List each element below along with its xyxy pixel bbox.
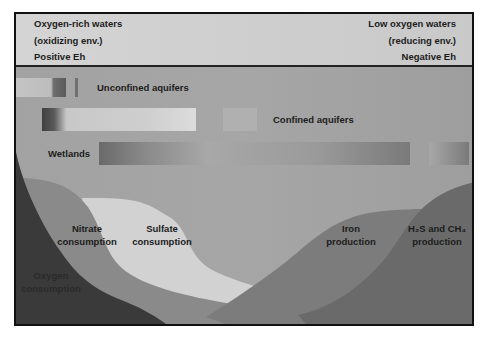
oxygen-rich-text: Oxygen-rich waters [34,16,122,33]
sulfate-zone-label: Sulfate consumption [128,222,196,248]
diagram-frame: Oxygen-rich waters (oxidizing env.) Posi… [14,12,474,326]
redox-header: Oxygen-rich waters (oxidizing env.) Posi… [16,14,472,67]
oxidizing-env-text: (oxidizing env.) [34,33,122,50]
oxidizing-label: Oxygen-rich waters (oxidizing env.) Posi… [34,16,122,66]
diagram-body: Unconfined aquifers Confined aquifers We… [16,67,472,324]
reducing-label: Low oxygen waters (reducing env.) Negati… [368,16,456,66]
reducing-env-text: (reducing env.) [368,33,456,50]
oxygen-zone-label: Oxygen consumption [16,269,86,295]
negative-eh-text: Negative Eh [368,49,456,66]
low-oxygen-text: Low oxygen waters [368,16,456,33]
iron-zone-label: Iron production [321,222,381,248]
h2s-ch4-zone-label: H₂S and CH₄ production [402,222,472,248]
positive-eh-text: Positive Eh [34,49,122,66]
nitrate-zone-label: Nitrate consumption [54,222,120,248]
